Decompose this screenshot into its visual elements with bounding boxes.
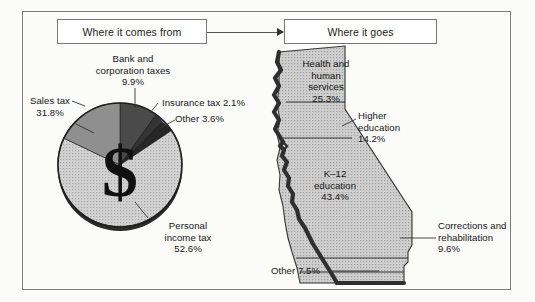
pie-label-other: Other 3.6% [175, 113, 285, 125]
infographic-canvas: Where it comes from Where it goes [0, 0, 535, 302]
pie-label-sales-tax: Sales tax 31.8% [14, 95, 86, 118]
leader-insurance-tax [150, 103, 158, 113]
map-label-higher-education: Higher education 14.2% [358, 110, 450, 145]
map-label-k12-education: K–12 education 43.4% [297, 168, 373, 203]
map-label-health-human-services: Health and human services 25.3% [287, 58, 365, 104]
map-label-corrections: Corrections and rehabilitation 9.6% [438, 220, 534, 255]
pie-label-bank-corporation: Bank and corporation taxes 9.9% [78, 53, 188, 88]
pie-label-personal-income-tax: Personal income tax 52.6% [143, 220, 233, 255]
figure-artwork: $ [0, 0, 535, 302]
pie-label-insurance-tax: Insurance tax 2.1% [162, 97, 282, 109]
dollar-sign-icon: $ [102, 132, 138, 212]
map-label-other: Other 7.5% [271, 265, 333, 277]
